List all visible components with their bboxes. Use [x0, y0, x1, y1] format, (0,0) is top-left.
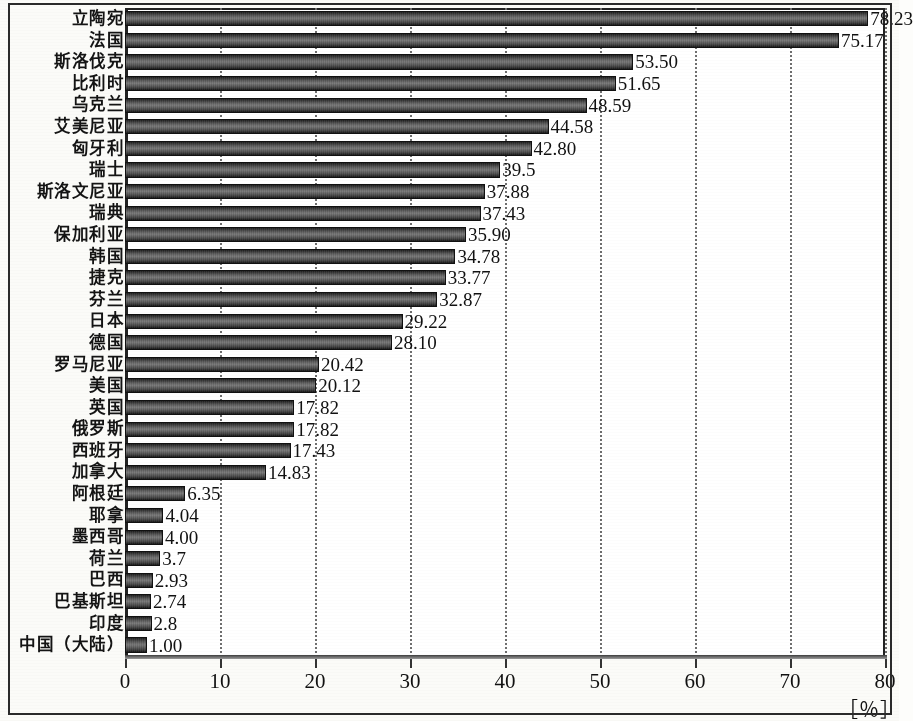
x-tick-label: 10	[210, 669, 231, 694]
bar-row: 中国（大陆）1.00	[0, 634, 899, 656]
bar[interactable]	[125, 141, 532, 156]
bar-container: 37.43	[125, 202, 525, 224]
bar-value-label: 53.50	[635, 52, 678, 71]
bar[interactable]	[125, 357, 319, 372]
bar-container: 34.78	[125, 246, 500, 268]
bar-container: 17.43	[125, 440, 335, 462]
bar-container: 20.12	[125, 375, 361, 397]
category-label: 中国（大陆）	[0, 634, 124, 656]
bar-value-label: 4.00	[165, 528, 198, 547]
category-label: 艾美尼亚	[0, 116, 124, 138]
bar[interactable]	[125, 378, 316, 393]
bar-value-label: 1.00	[149, 636, 182, 655]
bar[interactable]	[125, 292, 437, 307]
bar-row: 韩国34.78	[0, 246, 899, 268]
bar-row: 芬兰32.87	[0, 289, 899, 311]
bar[interactable]	[125, 249, 455, 264]
bar[interactable]	[125, 184, 485, 199]
bar-value-label: 35.90	[468, 225, 511, 244]
bar[interactable]	[125, 486, 185, 501]
bar[interactable]	[125, 33, 839, 48]
category-label: 西班牙	[0, 440, 124, 462]
bar-container: 78.23	[125, 8, 913, 30]
bar-row: 比利时51.65	[0, 73, 899, 95]
bar-row: 巴西2.93	[0, 569, 899, 591]
bar-container: 51.65	[125, 73, 660, 95]
bar-container: 3.7	[125, 548, 186, 570]
bar[interactable]	[125, 573, 153, 588]
bar[interactable]	[125, 76, 616, 91]
bar[interactable]	[125, 162, 500, 177]
category-label: 瑞典	[0, 202, 124, 224]
x-tick-label: 70	[780, 669, 801, 694]
category-label: 韩国	[0, 246, 124, 268]
bar[interactable]	[125, 508, 163, 523]
bar[interactable]	[125, 335, 392, 350]
bar[interactable]	[125, 119, 549, 134]
bar[interactable]	[125, 465, 266, 480]
bar[interactable]	[125, 400, 294, 415]
category-label: 德国	[0, 332, 124, 354]
category-label: 荷兰	[0, 548, 124, 570]
x-tick-80	[885, 659, 887, 668]
bar-row: 斯洛文尼亚37.88	[0, 181, 899, 203]
bar-container: 48.59	[125, 94, 631, 116]
bar[interactable]	[125, 594, 151, 609]
bar[interactable]	[125, 206, 481, 221]
bar-container: 75.17	[125, 30, 884, 52]
bar-row: 瑞士39.5	[0, 159, 899, 181]
category-label: 巴基斯坦	[0, 591, 124, 613]
bar[interactable]	[125, 11, 868, 26]
category-label: 耶拿	[0, 505, 124, 527]
category-label: 瑞士	[0, 159, 124, 181]
bar-value-label: 4.04	[165, 506, 198, 525]
bar-row: 保加利亚35.90	[0, 224, 899, 246]
bar-value-label: 37.88	[487, 182, 530, 201]
bar-value-label: 20.42	[321, 355, 364, 374]
x-tick-label: 0	[120, 669, 131, 694]
bar[interactable]	[125, 637, 147, 652]
x-tick-50	[600, 659, 602, 668]
x-axis: 01020304050607080	[0, 659, 899, 699]
bar-value-label: 2.93	[155, 571, 188, 590]
x-tick-label: 80	[875, 669, 896, 694]
bar-container: 44.58	[125, 116, 593, 138]
bar[interactable]	[125, 270, 446, 285]
bar-container: 17.82	[125, 397, 339, 419]
bar[interactable]	[125, 227, 466, 242]
bar[interactable]	[125, 98, 587, 113]
bar-value-label: 34.78	[457, 247, 500, 266]
bar-value-label: 48.59	[589, 96, 632, 115]
bar[interactable]	[125, 616, 152, 631]
bar[interactable]	[125, 54, 633, 69]
bar-value-label: 2.8	[154, 614, 178, 633]
bar-value-label: 51.65	[618, 74, 661, 93]
bar-container: 32.87	[125, 289, 482, 311]
category-label: 立陶宛	[0, 8, 124, 30]
bar-row: 俄罗斯17.82	[0, 418, 899, 440]
bar-container: 20.42	[125, 354, 364, 376]
category-label: 加拿大	[0, 461, 124, 483]
x-tick-70	[790, 659, 792, 668]
bar-value-label: 20.12	[318, 376, 361, 395]
bar-value-label: 6.35	[187, 484, 220, 503]
category-label: 英国	[0, 397, 124, 419]
bar-container: 2.74	[125, 591, 186, 613]
x-tick-60	[695, 659, 697, 668]
bar-container: 4.04	[125, 505, 199, 527]
bar-container: 14.83	[125, 461, 311, 483]
bar[interactable]	[125, 443, 291, 458]
bar[interactable]	[125, 530, 163, 545]
bar-value-label: 17.82	[296, 420, 339, 439]
bar[interactable]	[125, 422, 294, 437]
category-label: 比利时	[0, 73, 124, 95]
category-label: 芬兰	[0, 289, 124, 311]
bar-row: 日本29.22	[0, 310, 899, 332]
bar-container: 29.22	[125, 310, 447, 332]
bar-row: 阿根廷6.35	[0, 483, 899, 505]
bar[interactable]	[125, 314, 403, 329]
bar[interactable]	[125, 551, 160, 566]
x-tick-0	[125, 659, 127, 668]
